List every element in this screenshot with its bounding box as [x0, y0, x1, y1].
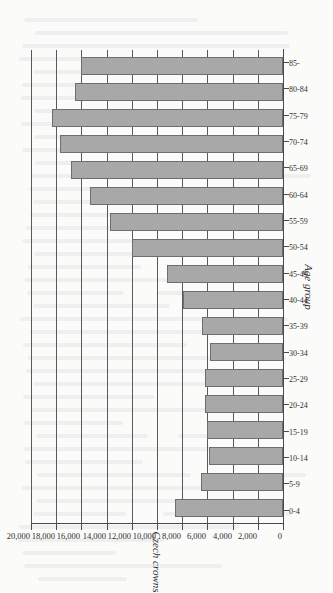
value-axis-tick — [31, 524, 32, 530]
bar-chart-figure: 02,0004,0006,0008,00010,00012,00014,0001… — [17, 16, 317, 576]
category-axis-tick-label-text: 10-14 — [289, 454, 308, 463]
value-axis-tick — [283, 524, 284, 530]
value-axis-tick-label-text: 14,000 — [82, 531, 105, 541]
bar-slot — [31, 79, 283, 105]
category-axis-tick — [283, 89, 289, 90]
category-axis-title: Age group — [303, 264, 315, 310]
category-axis-tick — [283, 405, 289, 406]
bar — [204, 395, 282, 413]
bar — [208, 447, 282, 465]
category-axis-tick-label-text: 60-64 — [289, 190, 308, 199]
category-axis-tick-label-text: 5-9 — [289, 480, 300, 489]
value-axis-tick — [257, 524, 258, 530]
bar — [209, 343, 282, 361]
category-axis-tick — [283, 220, 289, 221]
bar — [110, 213, 283, 231]
bar — [167, 265, 283, 283]
category-axis-tick — [283, 484, 289, 485]
bar — [52, 109, 283, 127]
category-axis-line — [283, 49, 284, 524]
value-axis-tick-label-text: 12,000 — [107, 531, 130, 541]
value-axis-tick — [207, 524, 208, 530]
category-axis-tick — [283, 326, 289, 327]
bar-slot — [31, 287, 283, 313]
plot-area — [31, 50, 283, 524]
value-axis-tick — [182, 524, 183, 530]
bar — [174, 499, 282, 517]
bar — [75, 83, 283, 101]
value-axis-tick-label-text: 4,000 — [212, 531, 231, 541]
bar-slot — [31, 339, 283, 365]
bar — [201, 473, 283, 491]
bar — [131, 239, 282, 257]
bar-slot — [31, 157, 283, 183]
bar-slot — [31, 495, 283, 521]
bar-slot — [31, 209, 283, 235]
bar-slot — [31, 53, 283, 79]
value-axis-tick — [157, 524, 158, 530]
category-axis-tick-label-text: 50-54 — [289, 243, 308, 252]
value-axis-tick — [56, 524, 57, 530]
category-axis-tick — [283, 431, 289, 432]
value-axis-tick-label-text: 6,000 — [187, 531, 206, 541]
bar-slot — [31, 417, 283, 443]
value-axis-title: Czech crowns — [151, 531, 163, 592]
bar-slot — [31, 469, 283, 495]
category-axis-tick — [283, 352, 289, 353]
category-axis-tick — [283, 168, 289, 169]
category-axis-tick-label-text: 0-4 — [289, 506, 300, 515]
bar-slot — [31, 313, 283, 339]
value-axis-tick-label-text: 2,000 — [237, 531, 256, 541]
bar — [183, 291, 283, 309]
value-axis-tick — [232, 524, 233, 530]
category-axis-tick-label-text: 85- — [289, 59, 300, 68]
value-axis-tick — [106, 524, 107, 530]
category-axis-tick-label-text: 20-24 — [289, 401, 308, 410]
category-axis-tick — [283, 115, 289, 116]
category-axis-tick — [283, 457, 289, 458]
bar — [90, 187, 283, 205]
category-axis-tick-label-text: 30-34 — [289, 348, 308, 357]
bar-slot — [31, 131, 283, 157]
value-axis-tick-label-text: 18,000 — [31, 531, 54, 541]
category-axis-tick — [283, 141, 289, 142]
bar — [202, 317, 283, 335]
bar-slot — [31, 365, 283, 391]
bar — [59, 135, 282, 153]
bar — [81, 57, 283, 75]
category-axis-tick — [283, 62, 289, 63]
bar — [204, 369, 282, 387]
category-axis-tick-label-text: 80-84 — [289, 85, 308, 94]
chart-rotation-wrapper: 02,0004,0006,0008,00010,00012,00014,0001… — [17, 16, 317, 576]
category-axis-tick — [283, 299, 289, 300]
bar-slot — [31, 391, 283, 417]
value-axis-tick-label-text: 8,000 — [162, 531, 181, 541]
bar-slot — [31, 261, 283, 287]
category-axis-tick — [283, 510, 289, 511]
value-axis-tick — [81, 524, 82, 530]
category-axis-tick-label-text: 75-79 — [289, 111, 308, 120]
bar-slot — [31, 235, 283, 261]
bar-slot — [31, 183, 283, 209]
category-axis-tick-label-text: 70-74 — [289, 138, 308, 147]
category-axis-tick-label-text: 55-59 — [289, 217, 308, 226]
category-axis-tick-label-text: 25-29 — [289, 375, 308, 384]
value-axis-tick — [131, 524, 132, 530]
category-axis-tick-label-text: 65-69 — [289, 164, 308, 173]
value-axis-tick-label-text: 16,000 — [57, 531, 80, 541]
category-axis-tick — [283, 194, 289, 195]
category-axis-tick-label-text: 15-19 — [289, 427, 308, 436]
bar-slot — [31, 443, 283, 469]
value-axis-tick-label-text: 20,000 — [6, 531, 29, 541]
value-axis-tick-label-text: 0 — [277, 531, 281, 541]
category-axis-tick-label-text: 35-39 — [289, 322, 308, 331]
bar — [71, 161, 283, 179]
bar-series — [31, 50, 283, 524]
category-axis-tick — [283, 247, 289, 248]
category-axis-tick — [283, 273, 289, 274]
bar-slot — [31, 105, 283, 131]
category-axis-tick — [283, 378, 289, 379]
bar — [207, 421, 283, 439]
